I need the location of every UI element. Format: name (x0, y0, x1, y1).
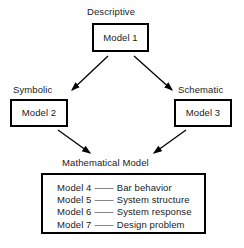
list-item-dash: —— (92, 194, 117, 205)
caption-descriptive: Descriptive (87, 7, 135, 17)
arrow-model1-to-model3 (134, 56, 172, 90)
list-item-description: System structure (117, 194, 190, 205)
caption-symbolic: Symbolic (13, 85, 52, 95)
list-item-model: Model 5 (57, 194, 92, 205)
caption-mathematical-model: Mathematical Model (62, 158, 149, 168)
node-model-list: Model 4——Bar behavior Model 5——System st… (41, 173, 206, 234)
model-list: Model 4——Bar behavior Model 5——System st… (43, 175, 204, 231)
list-item: Model 7——Design problem (57, 219, 204, 231)
list-item-model: Model 4 (57, 182, 92, 193)
list-item: Model 5——System structure (57, 194, 204, 206)
diagram-canvas: Descriptive Model 1 Symbolic Model 2 Sch… (0, 0, 244, 248)
list-item: Model 4——Bar behavior (57, 182, 204, 194)
node-model-1: Model 1 (92, 23, 149, 52)
list-item-model: Model 6 (57, 206, 92, 217)
list-item-model: Model 7 (57, 219, 92, 230)
list-item-dash: —— (92, 206, 117, 217)
node-model-2-label: Model 2 (22, 108, 57, 118)
node-model-3-label: Model 3 (186, 108, 221, 118)
list-item: Model 6——System response (57, 206, 204, 218)
list-item-description: System response (117, 206, 192, 217)
list-item-dash: —— (92, 219, 117, 230)
node-model-3: Model 3 (174, 99, 232, 127)
arrow-model2-to-mathematical-model (58, 130, 90, 153)
caption-schematic: Schematic (178, 85, 223, 95)
list-item-dash: —— (92, 182, 117, 193)
arrow-model3-to-mathematical-model (154, 130, 186, 153)
arrow-model1-to-model2 (72, 56, 108, 90)
list-item-description: Bar behavior (117, 182, 172, 193)
node-model-2: Model 2 (10, 99, 68, 127)
list-item-description: Design problem (117, 219, 185, 230)
node-model-1-label: Model 1 (103, 33, 138, 43)
